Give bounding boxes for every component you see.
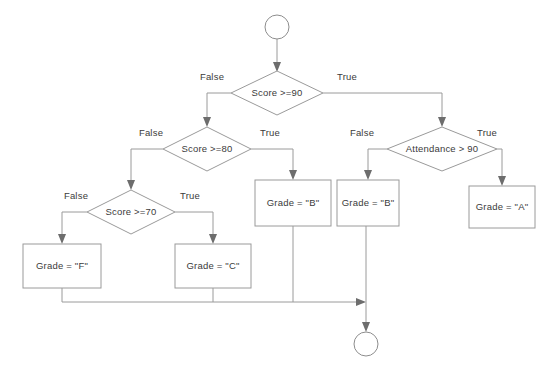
edge-attendance-false-to-grade-b2 bbox=[364, 149, 387, 180]
edge-label-score80-true: True bbox=[260, 128, 280, 138]
process-grade-c[interactable] bbox=[175, 244, 251, 288]
edge-attendance-true-to-grade-a bbox=[497, 149, 506, 186]
edge-label-attendance-false: False bbox=[350, 128, 374, 138]
edge-label-score70-true: True bbox=[180, 191, 200, 201]
edge-grade-f-to-merge bbox=[62, 288, 366, 306]
edge-label-score70-false: False bbox=[64, 191, 88, 201]
edge-label-attendance-true: True bbox=[477, 128, 497, 138]
edge-score80-true-to-grade-b1 bbox=[251, 149, 297, 180]
end-terminator[interactable] bbox=[354, 332, 378, 356]
decision-score-70[interactable] bbox=[87, 190, 175, 234]
process-grade-f[interactable] bbox=[23, 244, 101, 288]
process-grade-b-attendance[interactable] bbox=[337, 180, 399, 226]
edge-score80-false-to-score70 bbox=[127, 149, 163, 190]
flowchart-canvas: Score >=90 Score >=80 Score >=70 Attenda… bbox=[0, 0, 550, 368]
process-grade-a[interactable] bbox=[469, 186, 535, 228]
edge-score90-false-to-score80 bbox=[203, 93, 231, 127]
decision-score-80[interactable] bbox=[163, 127, 251, 171]
flowchart-graphics bbox=[0, 0, 550, 368]
edge-score70-false-to-grade-f bbox=[58, 212, 87, 244]
edge-label-score80-false: False bbox=[139, 128, 163, 138]
edge-grade-b2-to-end bbox=[362, 226, 370, 332]
edge-label-score90-true: True bbox=[337, 72, 357, 82]
decision-score-90[interactable] bbox=[231, 71, 323, 115]
start-terminator[interactable] bbox=[265, 15, 289, 39]
edge-score70-true-to-grade-c bbox=[175, 212, 217, 244]
edge-score90-true-to-attendance bbox=[323, 93, 446, 127]
edge-start-to-score90 bbox=[273, 39, 281, 72]
edge-label-score90-false: False bbox=[200, 72, 224, 82]
process-grade-b-score[interactable] bbox=[255, 180, 331, 226]
